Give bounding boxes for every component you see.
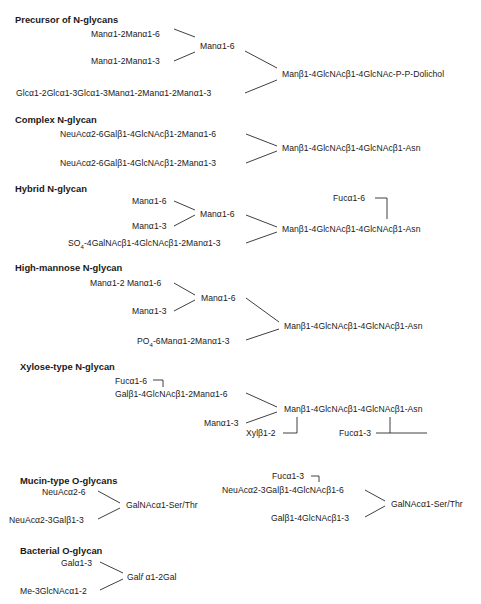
bacterial-link-b [100, 579, 123, 590]
section-title-mucin: Mucin-type O-glycans [20, 475, 117, 486]
section-title-precursor: Precursor of N-glycans [15, 14, 118, 25]
xylose-branch-a: Galβ1-4GlcNAcβ1-2Manα1-6 [115, 389, 228, 399]
mucin-left-core: GalNAcα1-Ser/Thr [126, 500, 198, 510]
highmannose-d-prefix: PO [137, 336, 150, 346]
xylose-link-a [246, 393, 277, 407]
xylose-link-b [246, 412, 277, 423]
complex-link-a [246, 134, 277, 146]
hybrid-link-b [174, 215, 195, 226]
highmannose-branch-a: Manα1-2 Manα1-6 [90, 278, 161, 288]
precursor-branch-b: Manα1-2Manα1-3 [91, 56, 160, 66]
mucin-right-fucose: Fucα1-3 [272, 471, 304, 481]
hybrid-branch-d: SO4-4GalNAcβ1-4GlcNAcβ1-2Manα1-3 [68, 238, 221, 252]
xylose-fuc6-link [153, 380, 163, 387]
mucin-right-link-b [365, 506, 385, 517]
xylose-xylose: Xylβ1-2 [246, 428, 276, 438]
highmannose-link-a [174, 283, 195, 295]
precursor-link-c [245, 51, 277, 68]
highmannose-link-b [174, 300, 195, 311]
mucin-left-link-a [98, 491, 120, 503]
highmannose-d-rest: -6Manα1-2Manα1-3 [153, 336, 230, 346]
hybrid-link-a [174, 201, 195, 210]
xylose-fucose-3: Fucα1-3 [339, 428, 371, 438]
section-title-bacterial: Bacterial O-glycan [20, 545, 102, 556]
highmannose-link-c [246, 298, 279, 322]
hybrid-d-prefix: SO [68, 238, 81, 248]
mucin-right-fuc-link [311, 476, 319, 482]
mucin-right-link-a [365, 490, 385, 501]
xylose-branch-b: Manα1-3 [204, 418, 238, 428]
mucin-right-core: GalNAcα1-Ser/Thr [391, 499, 463, 509]
xylose-xyl-link [283, 417, 297, 433]
precursor-branch-a: Manα1-2Manα1-6 [91, 29, 160, 39]
precursor-link-b [174, 52, 195, 61]
highmannose-link-d [246, 329, 279, 340]
hybrid-branch-a: Manα1-6 [132, 196, 166, 206]
xylose-fuc3-link [376, 417, 390, 433]
highmannose-branch-d: PO4-6Manα1-2Manα1-3 [137, 336, 230, 350]
hybrid-branch-b: Manα1-3 [132, 221, 166, 231]
mucin-left-branch-a: NeuAcα2-6 [42, 487, 86, 497]
hybrid-d-rest: -4GalNAcβ1-4GlcNAcβ1-2Manα1-3 [84, 238, 221, 248]
mucin-left-link-b [98, 508, 120, 519]
hybrid-branch-c: Manα1-6 [200, 209, 234, 219]
hybrid-link-d [246, 232, 277, 243]
section-title-xylose: Xylose-type N-glycan [20, 361, 115, 372]
bacterial-branch-b: Me-3GlcNAcα1-2 [20, 586, 87, 596]
complex-core: Manβ1-4GlcNAcβ1-4GlcNAcβ1-Asn [282, 143, 421, 153]
highmannose-branch-b: Manα1-3 [132, 306, 166, 316]
highmannose-core: Manβ1-4GlcNAcβ1-4GlcNAcβ1-Asn [284, 321, 423, 331]
section-title-hybrid: Hybrid N-glycan [15, 183, 87, 194]
section-title-complex: Complex N-glycan [15, 114, 97, 125]
xylose-fucose-6: Fucα1-6 [115, 376, 147, 386]
precursor-link-a [174, 29, 195, 37]
hybrid-core: Manβ1-4GlcNAcβ1-4GlcNAcβ1-Asn [282, 224, 421, 234]
precursor-link-d [245, 80, 277, 93]
mucin-right-branch-b: Galβ1-4GlcNAcβ1-3 [271, 513, 349, 523]
xylose-core: Manβ1-4GlcNAcβ1-4GlcNAcβ1-Asn [284, 404, 423, 414]
mucin-right-branch-a: NeuAcα2-3Galβ1-4GlcNAcβ1-6 [222, 485, 344, 495]
hybrid-link-c [246, 215, 277, 227]
hybrid-fuc-link [375, 198, 387, 219]
section-title-highmannose: High-mannose N-glycan [15, 262, 122, 273]
bacterial-core: Galf α1-2Gal [127, 572, 177, 582]
complex-branch-a: NeuAcα2-6Galβ1-4GlcNAcβ1-2Manα1-6 [60, 129, 216, 139]
precursor-core: Manβ1-4GlcNAcβ1-4GlcNAc-P-P-Dolichol [282, 69, 444, 79]
bacterial-core-rest: α1-2Gal [143, 572, 177, 582]
complex-link-b [246, 151, 277, 163]
hybrid-fucose: Fucα1-6 [333, 193, 365, 203]
bacterial-branch-a: Galα1-3 [61, 558, 92, 568]
bacterial-link-a [100, 562, 123, 573]
bacterial-core-prefix: Gal [127, 572, 141, 582]
precursor-branch-d: Glcα1-2Glcα1-3Glcα1-3Manα1-2Manα1-2Manα1… [16, 88, 211, 98]
highmannose-branch-c: Manα1-6 [201, 293, 235, 303]
mucin-left-branch-b: NeuAcα2-3Galβ1-3 [9, 515, 84, 525]
complex-branch-b: NeuAcα2-6Galβ1-4GlcNAcβ1-2Manα1-3 [60, 158, 216, 168]
precursor-branch-c: Manα1-6 [200, 41, 234, 51]
